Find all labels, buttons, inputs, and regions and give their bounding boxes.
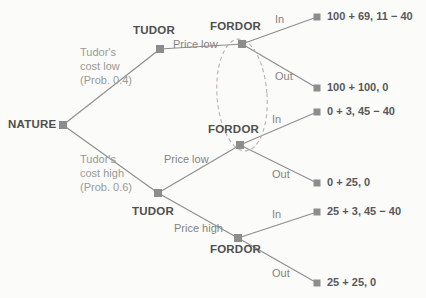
- tree-node-tudor-low[interactable]: [156, 45, 164, 53]
- player-label-fordor-bot: FORDOR: [210, 243, 261, 256]
- player-label-nature: NATURE: [8, 118, 56, 131]
- chance-label-chance-low-line3: (Prob. 0.4): [80, 73, 132, 87]
- chance-label-chance-low: Tudor'scost low(Prob. 0.4): [80, 45, 132, 87]
- chance-label-chance-high: Tudor'scost high(Prob. 0.6): [80, 152, 132, 194]
- action-label-price-high[interactable]: Price high: [174, 222, 223, 235]
- tree-node-fordor-bot[interactable]: [234, 234, 242, 242]
- terminal-node-t6[interactable]: [314, 280, 321, 287]
- payoff-label-t5: 25 + 3, 45 − 40: [327, 205, 401, 218]
- tree-node-nature[interactable]: [59, 121, 67, 129]
- action-label-out-top[interactable]: Out: [275, 70, 293, 83]
- payoff-label-t3: 0 + 3, 45 − 40: [327, 105, 395, 118]
- action-label-in-top[interactable]: In: [275, 13, 284, 26]
- tree-node-tudor-high[interactable]: [154, 189, 162, 197]
- game-tree-diagram: NATURETUDORTUDORFORDORFORDORFORDOR100 + …: [0, 0, 426, 298]
- action-label-out-bot[interactable]: Out: [272, 267, 290, 280]
- action-label-in-bot[interactable]: In: [272, 208, 281, 221]
- player-label-fordor-mid: FORDOR: [208, 123, 259, 136]
- terminal-node-t2[interactable]: [314, 85, 321, 92]
- terminal-node-t3[interactable]: [314, 109, 321, 116]
- payoff-label-t1: 100 + 69, 11 − 40: [327, 10, 413, 23]
- player-label-tudor-low: TUDOR: [133, 24, 175, 37]
- payoff-label-t6: 25 + 25, 0: [327, 276, 376, 289]
- chance-label-chance-low-line2: cost low: [80, 59, 132, 73]
- terminal-node-t1[interactable]: [314, 14, 321, 21]
- player-label-tudor-high: TUDOR: [132, 205, 174, 218]
- player-label-fordor-top: FORDOR: [210, 20, 261, 33]
- action-label-out-mid[interactable]: Out: [272, 168, 290, 181]
- terminal-node-t5[interactable]: [314, 209, 321, 216]
- payoff-label-t2: 100 + 100, 0: [327, 81, 388, 94]
- tree-node-fordor-mid[interactable]: [236, 141, 244, 149]
- chance-label-chance-low-line1: Tudor's: [80, 45, 132, 59]
- terminal-node-t4[interactable]: [314, 180, 321, 187]
- chance-label-chance-high-line2: cost high: [80, 166, 132, 180]
- payoff-label-t4: 0 + 25, 0: [327, 176, 370, 189]
- chance-label-chance-high-line3: (Prob. 0.6): [80, 180, 132, 194]
- chance-label-chance-high-line1: Tudor's: [80, 152, 132, 166]
- action-label-price-low-top[interactable]: Price low: [173, 38, 218, 51]
- tree-node-fordor-top[interactable]: [238, 40, 246, 48]
- action-label-price-low-bottom[interactable]: Price low: [164, 153, 209, 166]
- action-label-in-mid[interactable]: In: [272, 113, 281, 126]
